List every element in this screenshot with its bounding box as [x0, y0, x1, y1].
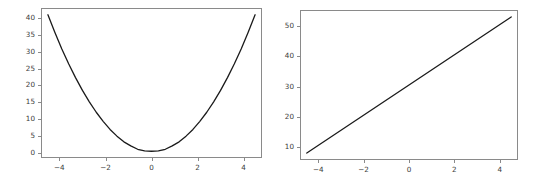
x-tick-label: 0	[407, 166, 412, 173]
y-tick-mark	[38, 52, 41, 53]
y-tick-mark	[297, 87, 300, 88]
y-tick-label: 30	[274, 83, 294, 90]
y-tick-label: 35	[15, 31, 35, 38]
y-tick-mark	[38, 85, 41, 86]
y-tick-mark	[38, 69, 41, 70]
x-tick-mark	[318, 160, 319, 163]
y-tick-mark	[38, 119, 41, 120]
y-tick-mark	[297, 117, 300, 118]
x-tick-label: 4	[241, 164, 246, 171]
data-line-parabola	[48, 15, 255, 152]
x-tick-mark	[106, 158, 107, 161]
x-tick-mark	[500, 160, 501, 163]
y-tick-label: 20	[15, 82, 35, 89]
data-line-linear	[307, 17, 511, 153]
matplotlib-figure: −4−20240510152025303540 −4−2024102030405…	[0, 0, 544, 185]
plot-area-left	[0, 0, 272, 185]
plot-area-right	[272, 0, 544, 185]
x-tick-label: −2	[100, 164, 111, 171]
y-tick-label: 25	[15, 65, 35, 72]
y-tick-label: 10	[15, 115, 35, 122]
x-tick-mark	[198, 158, 199, 161]
y-tick-label: 30	[15, 48, 35, 55]
y-tick-label: 10	[274, 143, 294, 150]
x-tick-mark	[244, 158, 245, 161]
y-tick-mark	[297, 56, 300, 57]
x-tick-mark	[409, 160, 410, 163]
y-tick-mark	[38, 136, 41, 137]
y-tick-mark	[38, 18, 41, 19]
x-tick-mark	[364, 160, 365, 163]
x-tick-label: 4	[498, 166, 503, 173]
subplot-left: −4−20240510152025303540	[0, 0, 272, 185]
x-tick-label: −4	[313, 166, 324, 173]
y-tick-mark	[297, 26, 300, 27]
x-tick-label: −2	[358, 166, 369, 173]
y-tick-mark	[38, 35, 41, 36]
y-tick-label: 20	[274, 113, 294, 120]
y-tick-mark	[38, 153, 41, 154]
y-tick-label: 50	[274, 22, 294, 29]
x-tick-label: −4	[54, 164, 65, 171]
x-tick-mark	[59, 158, 60, 161]
y-tick-mark	[38, 102, 41, 103]
x-tick-mark	[152, 158, 153, 161]
y-tick-label: 15	[15, 99, 35, 106]
x-tick-label: 2	[452, 166, 457, 173]
y-tick-label: 0	[15, 149, 35, 156]
y-tick-label: 5	[15, 132, 35, 139]
y-tick-mark	[297, 147, 300, 148]
subplot-right: −4−20241020304050	[272, 0, 544, 185]
y-tick-label: 40	[274, 53, 294, 60]
x-tick-mark	[454, 160, 455, 163]
y-tick-label: 40	[15, 14, 35, 21]
x-tick-label: 2	[195, 164, 200, 171]
x-tick-label: 0	[149, 164, 154, 171]
